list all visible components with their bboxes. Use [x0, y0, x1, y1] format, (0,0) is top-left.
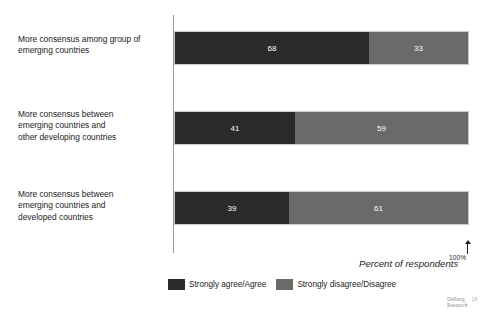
bar-segment-disagree[interactable]: 33 [369, 32, 468, 64]
category-label-line: emerging countries and [18, 120, 106, 130]
bar-segment-disagree[interactable]: 59 [295, 112, 468, 144]
legend-item-agree[interactable]: Strongly agree/Agree [168, 279, 266, 290]
bar-value-label: 41 [230, 124, 239, 133]
stacked-bar: 41 59 [174, 111, 469, 145]
bar-segment-agree[interactable]: 39 [175, 192, 289, 224]
axis-arrow-up-icon [463, 240, 472, 254]
category-label-line: emerging countries [18, 45, 89, 55]
slide-footer: DalbergResearch 13 [447, 296, 477, 309]
stacked-bar: 68 33 [174, 31, 469, 65]
legend-swatch-icon [276, 279, 293, 290]
brand-logo: DalbergResearch [447, 296, 468, 309]
chart-plot-area: More consensus among group ofemerging co… [0, 0, 504, 321]
bar-value-label: 61 [374, 204, 383, 213]
bar-value-label: 33 [414, 44, 423, 53]
slide-canvas: More consensus among group ofemerging co… [0, 0, 504, 321]
legend-item-disagree[interactable]: Strongly disagree/Disagree [276, 279, 396, 290]
category-label-line: More consensus among group of [18, 34, 140, 44]
category-label-line: developed countries [18, 212, 93, 222]
arrow-shaft [467, 243, 468, 254]
category-label-line: More consensus between [18, 109, 113, 119]
bar-segment-disagree[interactable]: 61 [289, 192, 468, 224]
bar-value-label: 59 [377, 124, 386, 133]
legend-label: Strongly agree/Agree [189, 280, 266, 289]
chart-row: More consensus among group ofemerging co… [0, 31, 504, 63]
chart-row: More consensus betweenemerging countries… [0, 191, 504, 223]
bar-value-label: 39 [227, 204, 236, 213]
bar-segment-agree[interactable]: 68 [175, 32, 369, 64]
category-label-line: other developing countries [18, 132, 116, 142]
category-label: More consensus betweenemerging countries… [18, 109, 170, 143]
category-label: More consensus betweenemerging countries… [18, 189, 170, 223]
brand-line-1: Dalberg [447, 296, 465, 302]
category-label-line: emerging countries and [18, 200, 106, 210]
page-number: 13 [472, 296, 478, 302]
legend-label: Strongly disagree/Disagree [297, 280, 396, 289]
chart-row: More consensus betweenemerging countries… [0, 111, 504, 143]
brand-line-2: Research [447, 302, 468, 308]
bar-segment-agree[interactable]: 41 [175, 112, 295, 144]
bar-value-label: 68 [267, 44, 276, 53]
category-label-line: More consensus between [18, 189, 113, 199]
legend-swatch-icon [168, 279, 185, 290]
stacked-bar: 39 61 [174, 191, 469, 225]
chart-legend: Strongly agree/Agree Strongly disagree/D… [168, 279, 396, 290]
axis-title: Percent of respondents [359, 258, 458, 269]
category-label: More consensus among group ofemerging co… [18, 34, 170, 57]
